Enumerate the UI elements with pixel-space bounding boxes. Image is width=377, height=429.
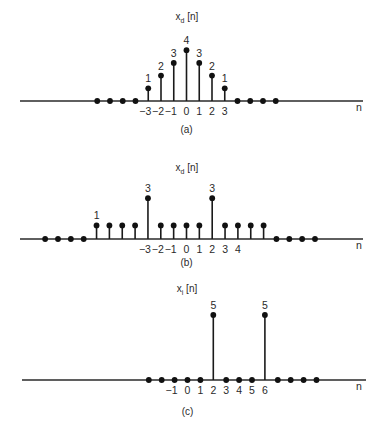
stem-dot [222, 223, 228, 229]
value-label: 5 [262, 299, 268, 311]
stem-dot [107, 223, 113, 229]
stem-dot [198, 377, 204, 383]
stem-dot [301, 377, 307, 383]
value-label: 3 [209, 182, 215, 194]
stem-sample [196, 223, 202, 240]
panel-title: xd [n] [176, 162, 199, 175]
value-label: 1 [222, 72, 228, 84]
tick-label: −2 [152, 105, 164, 117]
stem-dot [196, 223, 202, 229]
stem-dot [146, 377, 152, 383]
stem-dot [312, 236, 318, 242]
stem-sample [94, 98, 100, 104]
panel-b-stem-plot: 133−3−2−101234nxd [n](b) [20, 162, 363, 268]
stem-dot [261, 223, 267, 229]
stem-sample [247, 98, 253, 104]
stem-sample [185, 377, 191, 383]
stem-dot [260, 98, 266, 104]
tick-label: −1 [165, 243, 177, 255]
stem-dot [81, 236, 87, 242]
stem-dot [120, 98, 126, 104]
value-label: 1 [145, 72, 151, 84]
stem-dot [172, 377, 178, 383]
stem-dot [145, 195, 151, 201]
stem-sample [222, 85, 228, 101]
stem-sample [42, 236, 48, 242]
stem-dot [236, 377, 242, 383]
panel-title: xi [n] [177, 283, 198, 296]
stem-sample [198, 377, 204, 383]
stem-dot [107, 98, 113, 104]
tick-label: 4 [236, 384, 242, 396]
tick-label: −1 [165, 105, 177, 117]
stem-sample [249, 377, 255, 383]
stem-sample [133, 98, 139, 104]
stem-dot [68, 236, 74, 242]
stem-sample [145, 85, 151, 101]
value-label: 5 [210, 299, 216, 311]
stem-dot [185, 377, 191, 383]
tick-label: 2 [209, 105, 215, 117]
stem-dot [94, 223, 100, 229]
stem-dot [55, 236, 61, 242]
stem-sample [184, 223, 190, 240]
stem-sample [107, 98, 113, 104]
stem-dot [158, 73, 164, 79]
stem-sample [286, 236, 292, 242]
stem-sample [132, 223, 138, 240]
stem-sample [248, 223, 254, 240]
stem-dot [288, 377, 294, 383]
stem-sample [262, 312, 268, 380]
stem-dot [119, 223, 125, 229]
stem-sample [94, 223, 100, 240]
stem-sample [209, 195, 215, 239]
tick-label: 4 [235, 243, 241, 255]
stem-dot [209, 73, 215, 79]
stem-dot [249, 377, 255, 383]
stem-dot [171, 223, 177, 229]
stem-dot [314, 377, 320, 383]
axis-label-n: n [356, 380, 362, 392]
stem-sample [222, 223, 228, 240]
stem-sample [68, 236, 74, 242]
stem-dot [262, 312, 268, 318]
stem-sample [81, 236, 87, 242]
value-label: 3 [145, 182, 151, 194]
stem-sample [158, 223, 164, 240]
panel-caption: (b) [180, 257, 192, 268]
stem-dot [235, 98, 241, 104]
stem-dot [274, 236, 280, 242]
tick-label: 1 [197, 384, 203, 396]
stem-sample [107, 223, 113, 240]
stem-dot [209, 195, 215, 201]
stem-sample [171, 223, 177, 240]
stem-dot [247, 98, 253, 104]
stem-sample [301, 377, 307, 383]
stem-sample [236, 377, 242, 383]
panel-a-stem-plot: 1234321−3−2−10123nxd [n](a) [20, 11, 363, 135]
stem-sample [235, 223, 241, 240]
stem-dot [196, 60, 202, 66]
stem-dot [222, 85, 228, 91]
stem-dot [184, 47, 190, 53]
figure: 1234321−3−2−10123nxd [n](a) 133−3−2−1012… [0, 0, 377, 429]
stem-sample [273, 98, 279, 104]
stem-sample [55, 236, 61, 242]
stem-sample [288, 377, 294, 383]
stem-sample [172, 377, 178, 383]
stem-sample [184, 47, 190, 101]
tick-label: 0 [184, 243, 190, 255]
stem-dot [94, 98, 100, 104]
tick-label: −3 [139, 105, 151, 117]
stem-dot [275, 377, 281, 383]
stem-dot [158, 223, 164, 229]
tick-label: 1 [196, 105, 202, 117]
tick-label: 3 [222, 243, 228, 255]
stem-dot [248, 223, 254, 229]
stem-dot [273, 98, 279, 104]
stem-sample [235, 98, 241, 104]
tick-label: −2 [152, 243, 164, 255]
panel-caption: (c) [182, 406, 194, 417]
tick-label: 1 [196, 243, 202, 255]
stem-sample [312, 236, 318, 242]
